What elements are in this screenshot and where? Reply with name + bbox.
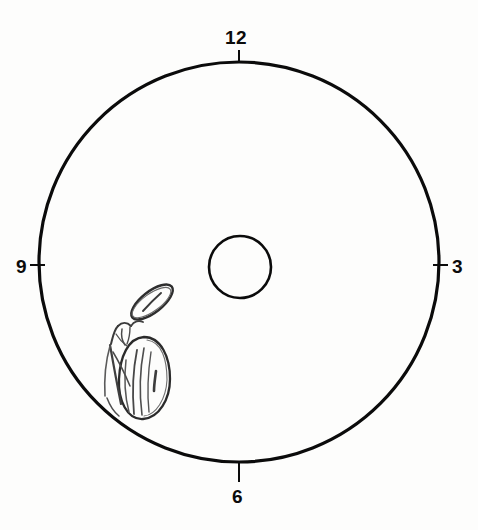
clock-label-9: 9 [16, 257, 27, 276]
figure-canvas: 12 3 6 9 [0, 0, 478, 530]
clock-label-12: 12 [225, 28, 247, 47]
clock-label-3: 3 [452, 257, 463, 276]
outer-circle [39, 62, 439, 462]
hand-drawn-lesion-sketch [105, 278, 178, 419]
clock-diagram [0, 0, 478, 530]
branching-stems [105, 321, 143, 416]
upper-ellipse [126, 278, 178, 325]
center-circle [209, 236, 271, 298]
clock-label-6: 6 [232, 487, 243, 506]
